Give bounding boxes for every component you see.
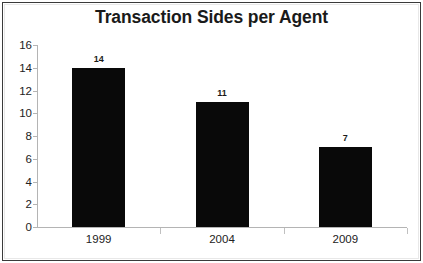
y-axis-tick-label: 2 <box>0 198 32 210</box>
y-axis-tick-label: 0 <box>0 221 32 233</box>
x-axis-label: 1999 <box>86 233 112 245</box>
y-axis-tick-mark <box>33 159 37 160</box>
y-axis-line <box>37 45 38 228</box>
y-axis-tick-label: 12 <box>0 85 32 97</box>
bar <box>72 68 125 227</box>
y-axis-tick-mark <box>33 227 37 228</box>
x-axis-label: 2009 <box>333 233 359 245</box>
y-axis-tick-label: 8 <box>0 130 32 142</box>
bar <box>196 102 249 227</box>
y-axis-tick-mark <box>33 136 37 137</box>
x-axis-line <box>37 227 407 228</box>
chart-figure: Transaction Sides per Agent 161412108642… <box>0 0 423 263</box>
bar-value-label: 14 <box>94 54 104 64</box>
x-axis-label: 2004 <box>209 233 235 245</box>
x-axis-separator-tick <box>160 228 161 234</box>
x-axis-separator-tick <box>284 228 285 234</box>
y-axis-tick-mark <box>33 182 37 183</box>
y-axis-tick-mark <box>33 91 37 92</box>
y-axis-tick-mark <box>33 45 37 46</box>
bar-value-label: 7 <box>343 133 348 143</box>
y-axis-tick-mark <box>33 204 37 205</box>
y-axis-tick-label: 4 <box>0 176 32 188</box>
y-axis-tick-mark <box>33 68 37 69</box>
y-axis-tick-label: 14 <box>0 62 32 74</box>
y-axis-tick-label: 6 <box>0 153 32 165</box>
y-axis-tick-label: 16 <box>0 39 32 51</box>
y-axis-tick-label: 10 <box>0 107 32 119</box>
x-axis-separator-tick <box>407 228 408 234</box>
bar <box>319 147 372 227</box>
bar-value-label: 11 <box>217 88 227 98</box>
chart-title: Transaction Sides per Agent <box>0 7 423 28</box>
y-axis-tick-mark <box>33 113 37 114</box>
